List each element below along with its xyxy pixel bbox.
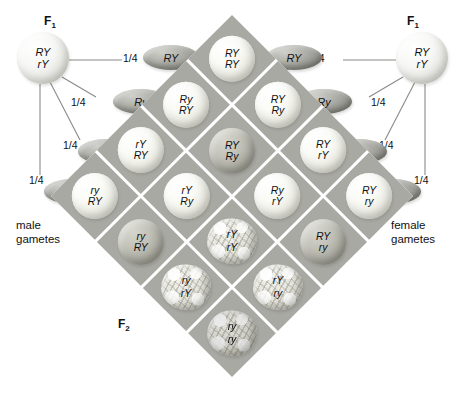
round-seed: rYRY xyxy=(117,127,163,173)
wrinkled-seed: rYry xyxy=(253,265,303,311)
punnett-square-grid: RYRYRYRyRYrYRYryRyRYRYRyRyrYRYryrYRYrYRy… xyxy=(51,15,413,377)
round-seed: RYRy xyxy=(209,127,255,173)
male-gamete-probability-3: 1/4 xyxy=(63,139,78,151)
male-gamete-probability-2: 1/4 xyxy=(71,96,86,108)
male-gamete-probability-4: 1/4 xyxy=(29,174,44,186)
female-gamete-probability-2: 1/4 xyxy=(371,96,386,108)
round-seed: ryRY xyxy=(72,173,118,219)
round-seed: RYRY xyxy=(209,36,255,82)
wrinkled-seed: ryry xyxy=(207,310,257,356)
female-gametes-caption: female gametes xyxy=(391,219,435,246)
round-seed: RyrY xyxy=(255,173,301,219)
f2-label: F2 xyxy=(118,317,130,333)
genotype-allele-top: ry xyxy=(228,321,237,333)
round-seed: RYry xyxy=(346,173,392,219)
genotype-allele-top: ry xyxy=(182,276,191,288)
genotype-allele-bottom: RY xyxy=(179,104,193,116)
female-gametes-caption-line1: female xyxy=(391,219,435,233)
f1-male-allele-bottom: rY xyxy=(38,58,49,70)
female-gamete-label-1: RY xyxy=(287,52,302,64)
f1-parent-male: RY rY xyxy=(17,32,69,84)
wrinkled-seed: rYrY xyxy=(207,219,257,265)
round-seed: RyRY xyxy=(163,81,209,127)
genotype-allele-top: rY xyxy=(227,230,238,242)
genotype-allele-bottom: RY xyxy=(133,242,147,254)
genotype-allele-bottom: rY xyxy=(181,288,192,300)
female-gametes-caption-line2: gametes xyxy=(391,233,435,247)
f1-female-allele-top: RY xyxy=(415,46,430,58)
genotype-allele-top: Ry xyxy=(180,93,193,105)
genotype-allele-bottom: ry xyxy=(273,288,282,300)
round-seed: RYRy xyxy=(255,81,301,127)
round-seed: RYry xyxy=(301,219,347,265)
f1-female-allele-bottom: rY xyxy=(417,58,428,70)
genotype-allele-bottom: RY xyxy=(88,196,102,208)
round-seed: rYRy xyxy=(163,173,209,219)
genotype-allele-bottom: Ry xyxy=(180,196,193,208)
genotype-allele-bottom: ry xyxy=(319,242,328,254)
male-gametes-caption: male gametes xyxy=(16,219,60,246)
genotype-allele-bottom: rY xyxy=(227,242,238,254)
male-gametes-caption-line2: gametes xyxy=(16,233,60,247)
round-seed: ryRY xyxy=(117,219,163,265)
f1-label-left: F1 xyxy=(44,14,56,30)
genotype-allele-bottom: Ry xyxy=(226,150,239,162)
genotype-allele-bottom: ry xyxy=(365,196,374,208)
genotype-allele-bottom: rY xyxy=(318,150,329,162)
genotype-allele-bottom: ry xyxy=(228,334,237,346)
f1-label-right: F1 xyxy=(407,14,419,30)
genotype-allele-bottom: RY xyxy=(133,150,147,162)
f1-parent-female: RY rY xyxy=(396,32,448,84)
wrinkled-seed: ryrY xyxy=(161,265,211,311)
male-gametes-caption-line1: male xyxy=(16,219,60,233)
f1-male-allele-top: RY xyxy=(36,46,51,58)
genotype-allele-top: RY xyxy=(271,93,285,105)
genotype-allele-bottom: rY xyxy=(273,196,284,208)
genotype-allele-top: rY xyxy=(273,276,284,288)
male-gamete-probability-1: 1/4 xyxy=(123,52,138,64)
male-gamete-label-1: RY xyxy=(164,52,179,64)
genotype-allele-bottom: RY xyxy=(225,59,239,71)
genotype-allele-bottom: Ry xyxy=(271,104,284,116)
genotype-allele-top: RY xyxy=(225,139,239,151)
diagram-canvas: F1 RY rY 1/4 1/4 1/4 1/4 RY Ry rY ry mal… xyxy=(0,0,465,413)
round-seed: RYrY xyxy=(301,127,347,173)
